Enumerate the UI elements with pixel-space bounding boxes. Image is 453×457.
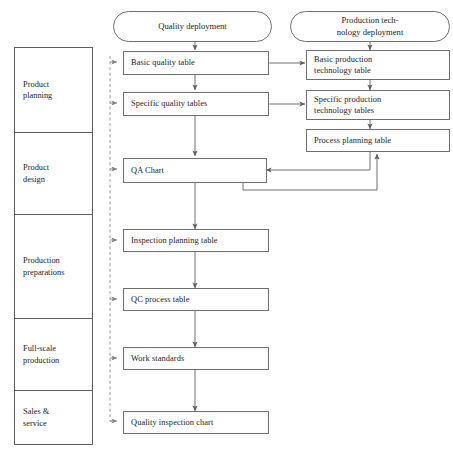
node-qc-process-table[interactable]: QC process table (123, 288, 269, 311)
phase-label: Sales & service (23, 406, 49, 429)
node-specific-quality-tables[interactable]: Specific quality tables (123, 92, 269, 116)
node-process-planning-table[interactable]: Process planning table (306, 129, 450, 152)
banner-label: Production tech- nology deployment (337, 15, 404, 38)
node-label: QC process table (131, 294, 190, 305)
phase-label: Full-scale production (23, 343, 59, 366)
node-label: Specific quality tables (131, 98, 207, 109)
phase-cell-full-scale-production[interactable]: Full-scale production (15, 318, 92, 390)
phase-cell-production-preparations[interactable]: Production preparations (15, 214, 92, 318)
phase-label: Product planning (23, 79, 52, 102)
phase-cell-product-planning[interactable]: Product planning (15, 48, 92, 132)
banner-quality-deployment[interactable]: Quality deployment (113, 11, 272, 42)
node-inspection-planning-table[interactable]: Inspection planning table (123, 229, 269, 252)
node-label: Basic quality table (131, 57, 195, 68)
node-label: Basic production technology table (314, 54, 372, 76)
phase-cell-product-design[interactable]: Product design (15, 132, 92, 214)
phase-cell-sales-service[interactable]: Sales & service (15, 390, 92, 444)
node-label: QA Chart (131, 165, 164, 176)
node-label: Inspection planning table (131, 235, 218, 246)
phase-label: Product design (23, 162, 49, 185)
node-qa-chart[interactable]: QA Chart (123, 158, 267, 183)
phase-column: Product planning Product design Producti… (14, 47, 93, 445)
qfd-flow-diagram: Product planning Product design Producti… (0, 0, 453, 457)
node-specific-production-technology-tables[interactable]: Specific production technology tables (306, 90, 450, 120)
node-basic-production-technology-table[interactable]: Basic production technology table (306, 50, 450, 80)
phase-label: Production preparations (23, 255, 64, 278)
node-label: Work standards (131, 353, 184, 364)
node-work-standards[interactable]: Work standards (123, 347, 269, 370)
node-label: Quality inspection chart (131, 417, 213, 428)
node-label: Process planning table (314, 135, 391, 146)
node-label: Specific production technology tables (314, 94, 381, 116)
node-basic-quality-table[interactable]: Basic quality table (123, 51, 269, 75)
banner-label: Quality deployment (158, 21, 227, 33)
banner-production-technology-deployment[interactable]: Production tech- nology deployment (290, 11, 450, 42)
node-quality-inspection-chart[interactable]: Quality inspection chart (123, 411, 269, 434)
